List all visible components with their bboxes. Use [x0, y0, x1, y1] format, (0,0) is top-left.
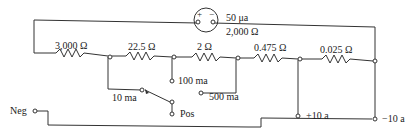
meter-minus: −	[209, 10, 214, 19]
tap-label-pos: Pos	[180, 109, 194, 119]
resistor-0-025	[302, 55, 373, 63]
tap-label-500ma: 500 ma	[209, 92, 239, 102]
tap-10ma-wire	[108, 57, 142, 90]
tap-label-10ma: 10 ma	[112, 93, 137, 103]
circuit-diagram	[0, 0, 417, 139]
resistor-label-0-025: 0.025 Ω	[320, 45, 352, 55]
resistor-0-475	[240, 54, 298, 62]
resistor-label-0-475: 0.475 Ω	[254, 43, 286, 53]
meter-plus: +	[197, 10, 202, 19]
tap-label-neg: Neg	[10, 106, 27, 116]
resistor-label-3000: 3,000 Ω	[55, 41, 87, 51]
meter-current: 50 μa	[226, 13, 248, 23]
resistor-label-2: 2 Ω	[197, 42, 212, 52]
meter-resistance: 2,000 Ω	[226, 27, 258, 37]
top-wire-left	[34, 20, 198, 23]
tap-label-10a-pos: +10 a	[306, 111, 329, 121]
switch-arm	[145, 90, 170, 102]
tap-label-10a-neg: −10 a	[382, 114, 405, 124]
resistor-2	[176, 53, 236, 61]
resistor-22-5	[112, 52, 172, 60]
resistor-label-22-5: 22.5 Ω	[128, 42, 155, 52]
tap-label-100ma: 100 ma	[178, 76, 208, 86]
left-wire	[34, 20, 56, 53]
